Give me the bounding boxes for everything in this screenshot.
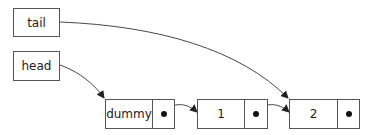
- tail-label: tail: [27, 16, 46, 30]
- head-arrow: [60, 65, 104, 98]
- pointer-dot-icon: [161, 111, 167, 117]
- next-pointer-cell: [338, 100, 359, 128]
- next-pointer-cell: [153, 100, 174, 128]
- head-variable-box: head: [13, 51, 60, 81]
- node-2: 2: [289, 99, 360, 129]
- linked-list-diagram: tail head dummy 1 2: [0, 0, 368, 135]
- next-pointer-cell: [245, 100, 267, 128]
- node-dummy: dummy: [105, 99, 175, 129]
- tail-variable-box: tail: [13, 8, 60, 37]
- node-value: dummy: [106, 100, 153, 128]
- head-label: head: [22, 59, 52, 73]
- node-value: 2: [290, 100, 338, 128]
- pointer-dot-icon: [253, 111, 259, 117]
- tail-arrow: [60, 22, 288, 98]
- node-value: 1: [198, 100, 245, 128]
- node-1: 1: [197, 99, 268, 129]
- pointer-dot-icon: [346, 111, 352, 117]
